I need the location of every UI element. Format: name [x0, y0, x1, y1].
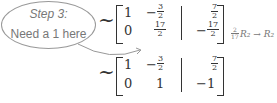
- m2-r1-c2: 32: [157, 55, 164, 72]
- m1-r1-c2: 32: [157, 3, 164, 20]
- left-bracket: [116, 5, 123, 44]
- m1-r2-c1: 0: [124, 23, 132, 38]
- m2-r2-c2: 1: [156, 76, 164, 91]
- den: 2: [154, 30, 166, 38]
- tilde-symbol: ~: [98, 8, 115, 32]
- augment-bar-2: [181, 58, 182, 92]
- den: 2: [157, 64, 164, 72]
- m1-r1-c2-sign: −: [146, 5, 157, 20]
- m2-r2-c1: 0: [124, 76, 132, 91]
- m2-r1-c2-sign: −: [146, 57, 157, 72]
- m2-r2-c3: −1: [196, 76, 215, 91]
- augment-bar: [181, 6, 182, 40]
- row-operation: R₂ → R₂: [240, 29, 274, 39]
- right-bracket-2: [217, 57, 224, 96]
- row-op-coef: 217: [231, 27, 239, 40]
- right-bracket: [217, 5, 224, 44]
- m1-r2-c2: 172: [154, 21, 166, 38]
- m1-r1-c1: 1: [124, 5, 132, 20]
- m2-r1-c1: 1: [124, 57, 132, 72]
- tilde-symbol-2: ~: [98, 60, 115, 84]
- annotation-arrow-icon: [0, 0, 277, 103]
- m1-r2-c3-sign: −: [196, 23, 207, 38]
- left-bracket-2: [116, 57, 123, 96]
- den: 17: [231, 34, 239, 40]
- den: 2: [157, 12, 164, 20]
